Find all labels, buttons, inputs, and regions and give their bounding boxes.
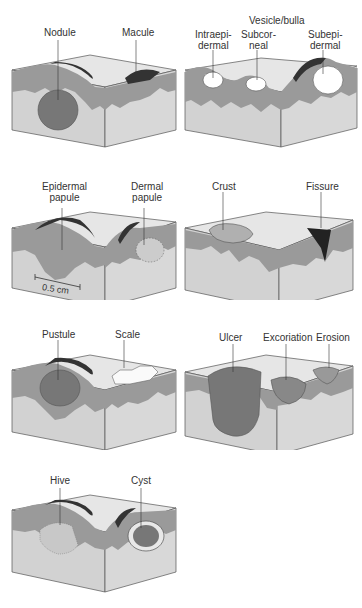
skin-block-diagram bbox=[0, 300, 181, 450]
label-subcorneal: Subcor- neal bbox=[241, 29, 276, 51]
panel-crust-fissure: Crust Fissure bbox=[181, 150, 362, 300]
label-cyst: Cyst bbox=[131, 475, 151, 486]
skin-block-diagram bbox=[181, 150, 362, 300]
label-erosion: Erosion bbox=[316, 332, 350, 343]
label-hive: Hive bbox=[50, 475, 70, 486]
skin-block-diagram bbox=[0, 0, 181, 150]
label-macule: Macule bbox=[122, 27, 154, 38]
skin-block-diagram bbox=[0, 150, 181, 300]
skin-block-diagram bbox=[181, 300, 362, 450]
panel-ulcer-excoriation-erosion: Ulcer Excoriation Erosion bbox=[181, 300, 362, 450]
panel-nodule-macule: Nodule Macule bbox=[0, 0, 181, 150]
label-excoriation: Excoriation bbox=[263, 332, 312, 343]
label-crust: Crust bbox=[212, 181, 236, 192]
label-subepidermal: Subepi- dermal bbox=[308, 29, 342, 51]
skin-block-diagram bbox=[0, 450, 181, 608]
label-nodule: Nodule bbox=[44, 27, 76, 38]
label-epidermal-papule: Epidermal papule bbox=[42, 181, 87, 203]
label-pustule: Pustule bbox=[42, 329, 75, 340]
label-intraepidermal: Intraepi- dermal bbox=[195, 29, 232, 51]
panel-pustule-scale: Pustule Scale bbox=[0, 300, 181, 450]
label-scale: Scale bbox=[115, 329, 140, 340]
panel-papules: Epidermal papule Dermal papule 0.5 cm bbox=[0, 150, 181, 300]
label-vesicle-bulla: Vesicle/bulla bbox=[249, 15, 305, 26]
label-ulcer: Ulcer bbox=[219, 332, 242, 343]
label-dermal-papule: Dermal papule bbox=[131, 181, 163, 203]
panel-hive-cyst: Hive Cyst bbox=[0, 450, 181, 600]
label-fissure: Fissure bbox=[306, 181, 339, 192]
panel-vesicle-bulla: Vesicle/bulla Intraepi- dermal Subcor- n… bbox=[181, 0, 362, 150]
